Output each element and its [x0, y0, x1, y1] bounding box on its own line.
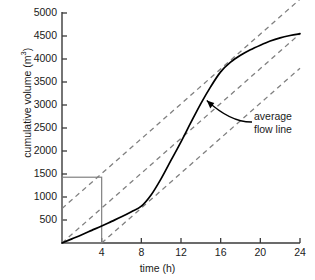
callout-line-1: average: [254, 110, 292, 123]
construction-rectangle-outline: [62, 177, 102, 243]
callout-leader-line: [207, 100, 252, 122]
plot-canvas: [0, 0, 315, 280]
callout-arrowhead: [207, 100, 215, 108]
average-flow-line: [102, 68, 300, 243]
callout-line-2: flow line: [254, 123, 292, 136]
average-flow-line-label: average flow line: [254, 110, 292, 136]
average-flow-line: [62, 0, 300, 209]
average-flow-line: [62, 34, 300, 243]
chart-container: cumulative volume (m3) time (h) 50010001…: [0, 0, 315, 280]
construction-rectangle: [62, 177, 102, 243]
